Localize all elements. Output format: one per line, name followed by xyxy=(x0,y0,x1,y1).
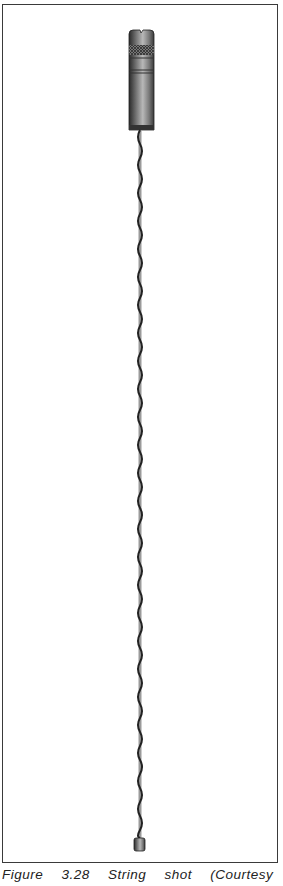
tool-head xyxy=(129,30,154,130)
figure-caption: Figure 3.28 String shot (Courtesy of NL xyxy=(2,866,280,884)
tool-bottom-weight xyxy=(134,838,145,851)
twisted-cable xyxy=(138,130,142,838)
string-shot-illustration xyxy=(0,0,283,886)
